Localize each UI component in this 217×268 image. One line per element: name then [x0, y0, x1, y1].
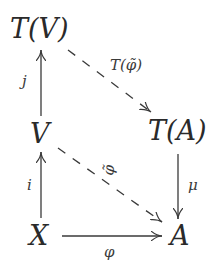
- node-v: V: [30, 118, 52, 149]
- node-t-of-v: T(V): [10, 13, 69, 44]
- label-phi: φ: [104, 243, 115, 261]
- label-phi-tilde: φ̃: [99, 163, 118, 176]
- commutative-diagram: T(V) V X T(A) A j i φ μ T(φ̃) φ̃: [0, 0, 217, 268]
- label-i: i: [27, 176, 32, 194]
- arrow-phi-tilde: [58, 148, 162, 222]
- label-mu: μ: [188, 176, 198, 194]
- label-t-phi-tilde: T(φ̃): [110, 56, 142, 74]
- node-x: X: [27, 220, 50, 251]
- node-a: A: [167, 220, 190, 251]
- label-j: j: [19, 72, 27, 90]
- node-t-of-a: T(A): [148, 115, 207, 146]
